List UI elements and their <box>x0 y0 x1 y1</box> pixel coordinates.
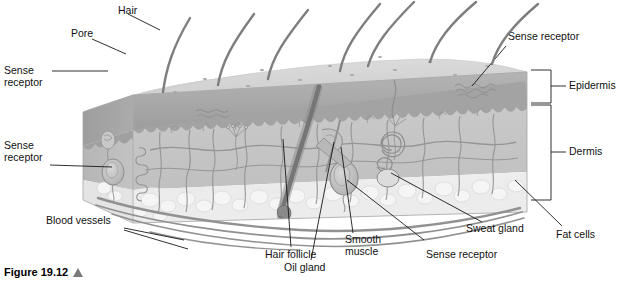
skin-cross-section-diagram <box>0 0 624 287</box>
label-sense-receptor-lower-left: Sense receptor <box>4 140 43 163</box>
label-dermis: Dermis <box>569 146 602 158</box>
label-sense-receptor-top-right: Sense receptor <box>508 31 579 43</box>
label-hair: Hair <box>118 5 137 17</box>
label-smooth-muscle: Smooth muscle <box>345 234 381 257</box>
label-oil-gland: Oil gland <box>284 262 325 274</box>
bracket-epidermis <box>531 70 551 103</box>
bracket-dermis <box>531 105 551 200</box>
label-sweat-gland: Sweat gland <box>466 223 524 235</box>
label-fat-cells: Fat cells <box>556 229 595 241</box>
label-pore: Pore <box>71 28 93 40</box>
label-sense-receptor-upper-left: Sense receptor <box>4 65 43 88</box>
figure-caption: Figure 19.12 <box>4 266 83 278</box>
triangle-up-icon <box>73 268 83 277</box>
figure-caption-label: Figure 19.12 <box>4 266 68 278</box>
label-blood-vessels: Blood vessels <box>46 215 111 227</box>
label-hair-follicle: Hair follicle <box>265 249 316 261</box>
leader-pore <box>92 39 126 54</box>
layer-brackets <box>531 70 566 200</box>
label-epidermis: Epidermis <box>569 80 616 92</box>
label-sense-receptor-bottom: Sense receptor <box>426 249 497 261</box>
skin-block <box>83 56 529 250</box>
